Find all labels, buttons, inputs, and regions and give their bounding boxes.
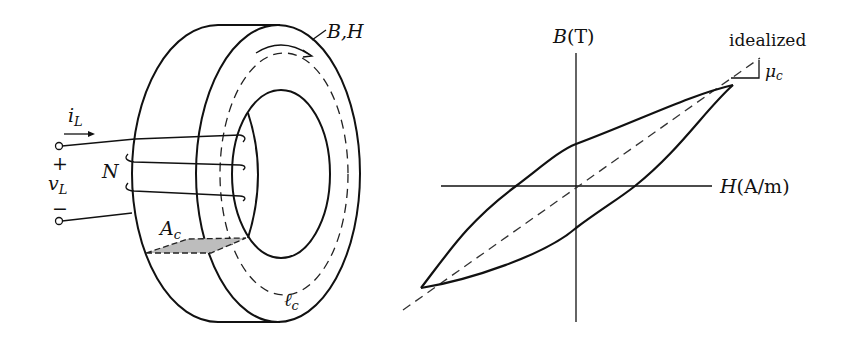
winding-coil bbox=[62, 135, 245, 221]
current-arrow bbox=[64, 131, 95, 137]
label-current: iL bbox=[68, 104, 83, 129]
label-field: B,H bbox=[326, 20, 364, 42]
toroid-back-outer-edge bbox=[132, 25, 218, 322]
slope-label: μc bbox=[765, 61, 783, 83]
x-axis-label: H(A/m) bbox=[719, 175, 790, 197]
idealized-line bbox=[403, 58, 760, 310]
label-area: Ac bbox=[158, 217, 182, 242]
diagram-canvas: iL + vL − N B,H Ac ℓc B(T) H(A/m) ideali… bbox=[0, 0, 845, 345]
label-voltage: vL bbox=[48, 172, 67, 197]
toroid-inner-hole bbox=[232, 90, 330, 258]
cross-section-ac bbox=[146, 238, 246, 253]
terminal-positive bbox=[56, 143, 63, 150]
toroid-inner-back-edge bbox=[248, 113, 258, 238]
idealized-label: idealized bbox=[729, 30, 806, 50]
label-minus: − bbox=[52, 197, 68, 219]
field-arrow bbox=[256, 30, 326, 57]
bh-chart bbox=[403, 53, 760, 322]
label-turns: N bbox=[101, 160, 120, 182]
label-plus: + bbox=[52, 152, 68, 174]
toroid-core bbox=[132, 25, 360, 322]
toroid-front-outer-edge bbox=[196, 25, 360, 322]
y-axis-label: B(T) bbox=[552, 25, 594, 47]
